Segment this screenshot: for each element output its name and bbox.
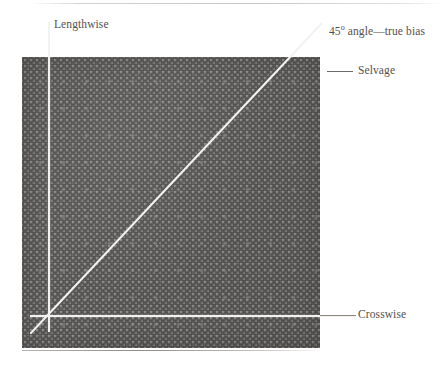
fabric-swatch [22,57,320,348]
fabric-weave-texture [22,57,320,348]
selvage-leader-line [327,71,353,72]
scan-artifact-top-rule [30,3,441,4]
label-crosswise: Crosswise [358,309,406,321]
crosswise-grain-line [30,315,355,317]
fabric-shading-overlay [22,57,320,348]
scan-artifact-bottom-rule [22,350,322,351]
label-true-bias-value: 45 [329,25,341,37]
label-selvage: Selvage [358,65,395,77]
label-true-bias: 45o angle—true bias [329,26,425,38]
fabric-grain-figure: Lengthwise 45o angle—true bias Selvage C… [0,0,441,368]
label-lengthwise: Lengthwise [54,19,109,31]
crosswise-leader-line [320,315,356,316]
label-true-bias-text: angle—true bias [345,25,425,37]
lengthwise-grain-line [48,22,50,332]
